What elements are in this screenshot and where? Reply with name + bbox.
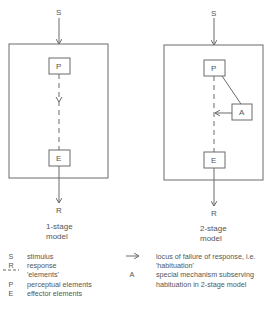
legend-symbol: A: [124, 270, 140, 288]
legend-text: stimulus: [19, 252, 53, 261]
legend-symbol: E: [3, 289, 19, 298]
one-stage-model: [9, 18, 108, 203]
response-label: R: [211, 209, 217, 218]
one-stage-caption: 1-stage model: [46, 222, 73, 242]
legend-right: → locus of failure of response, i.e. 'ha…: [124, 252, 276, 289]
legend-item: Rresponse: [3, 261, 92, 270]
legend-item: A special mechanism subserving habituati…: [124, 270, 276, 288]
legend-symbol: ---: [3, 270, 19, 279]
habituation-locus-arrowhead: [56, 97, 62, 102]
caption-line-1: 2-stage: [200, 224, 227, 234]
legend-symbol: P: [3, 280, 19, 289]
caption-line-1: 1-stage: [46, 222, 73, 232]
legend-text: 'elements': [19, 270, 59, 279]
effector-label: E: [211, 156, 216, 165]
caption-line-2: model: [200, 234, 227, 244]
legend-text: effector elements: [19, 289, 82, 298]
p-to-a-connector: [222, 76, 241, 104]
legend-text: perceptual elements: [19, 280, 92, 289]
stimulus-label: S: [56, 8, 61, 17]
stimulus-label: S: [211, 9, 216, 18]
perceptual-label: P: [56, 62, 61, 71]
legend-item: ---'elements': [3, 270, 92, 279]
legend-left: Sstimulus Rresponse ---'elements' Pperce…: [3, 252, 92, 298]
two-stage-model: [164, 18, 263, 206]
legend-symbol: S: [3, 252, 19, 261]
caption-line-2: model: [46, 232, 73, 242]
legend-symbol: R: [3, 261, 19, 270]
legend-item: Sstimulus: [3, 252, 92, 261]
legend-symbol: →: [124, 252, 140, 270]
perceptual-label: P: [211, 64, 216, 73]
legend-text: response: [19, 261, 57, 270]
response-label: R: [56, 206, 62, 215]
legend-text: special mechanism subserving habituation…: [140, 270, 276, 288]
effector-label: E: [56, 154, 61, 163]
two-stage-caption: 2-stage model: [200, 224, 227, 244]
legend-item: Pperceptual elements: [3, 280, 92, 289]
mechanism-label: A: [239, 108, 244, 117]
legend-item: → locus of failure of response, i.e. 'ha…: [124, 252, 276, 270]
legend-text: locus of failure of response, i.e. 'habi…: [140, 252, 276, 270]
legend-item: Eeffector elements: [3, 289, 92, 298]
